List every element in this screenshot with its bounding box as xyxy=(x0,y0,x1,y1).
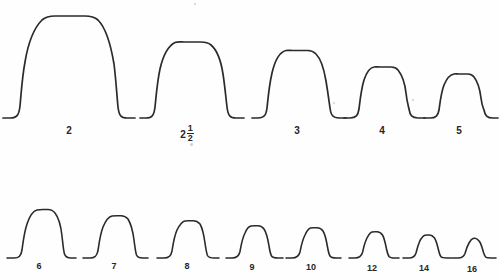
profile-curve-8 xyxy=(157,221,219,258)
curve-label-4-text: 4 xyxy=(379,125,385,136)
profile-curve-3 xyxy=(252,50,346,118)
curve-label-2-and-a-half: 212 xyxy=(167,124,207,144)
curve-label-8-text: 8 xyxy=(184,261,189,271)
curve-label-12: 12 xyxy=(352,264,392,273)
curve-label-8: 8 xyxy=(167,262,207,271)
curve-label-16-text: 16 xyxy=(467,264,477,274)
profile-curve-4 xyxy=(344,67,425,118)
curve-label-3-text: 3 xyxy=(294,125,300,136)
curve-label-16: 16 xyxy=(452,265,492,274)
curve-label-2-and-a-half-whole: 2 xyxy=(180,129,186,140)
curve-label-5-text: 5 xyxy=(456,125,462,136)
profile-curve-7 xyxy=(83,216,148,258)
profile-curve-6 xyxy=(7,210,76,259)
curve-label-10: 10 xyxy=(291,263,331,272)
curve-label-4: 4 xyxy=(362,126,402,136)
figure-root: 2 212 3 4 5 6 7 8 9 10 12 14 16 xyxy=(0,0,499,279)
curve-label-9-text: 9 xyxy=(249,262,254,272)
profile-curve-2-and-a-half xyxy=(140,42,244,118)
curve-profiles-canvas xyxy=(0,0,499,279)
scan-speck xyxy=(194,3,196,5)
curve-label-9: 9 xyxy=(232,263,272,272)
scan-speck xyxy=(190,143,193,146)
profile-curve-14 xyxy=(403,235,451,258)
curve-label-2-text: 2 xyxy=(66,125,72,136)
curve-label-2: 2 xyxy=(49,126,89,136)
profile-curve-12 xyxy=(349,232,399,258)
curve-label-5: 5 xyxy=(439,126,479,136)
curve-label-12-text: 12 xyxy=(367,263,377,273)
profile-curve-5 xyxy=(424,74,498,118)
profile-curve-10 xyxy=(286,228,341,258)
curve-label-14: 14 xyxy=(404,264,444,273)
curve-label-7-text: 7 xyxy=(111,261,116,271)
scan-speck xyxy=(333,102,335,104)
curve-label-7: 7 xyxy=(94,262,134,271)
curve-label-3: 3 xyxy=(277,126,317,136)
profile-curve-16 xyxy=(452,238,496,258)
curve-label-10-text: 10 xyxy=(306,262,316,272)
curve-label-6-text: 6 xyxy=(36,261,41,271)
profile-curve-2 xyxy=(3,16,135,118)
bottom-row-curves xyxy=(7,210,496,259)
fraction-one-half: 12 xyxy=(187,124,194,144)
top-row-curves xyxy=(3,16,498,118)
curve-label-6: 6 xyxy=(19,262,59,271)
scan-speck xyxy=(412,99,414,101)
profile-curve-9 xyxy=(226,226,283,258)
curve-label-14-text: 14 xyxy=(419,263,429,273)
